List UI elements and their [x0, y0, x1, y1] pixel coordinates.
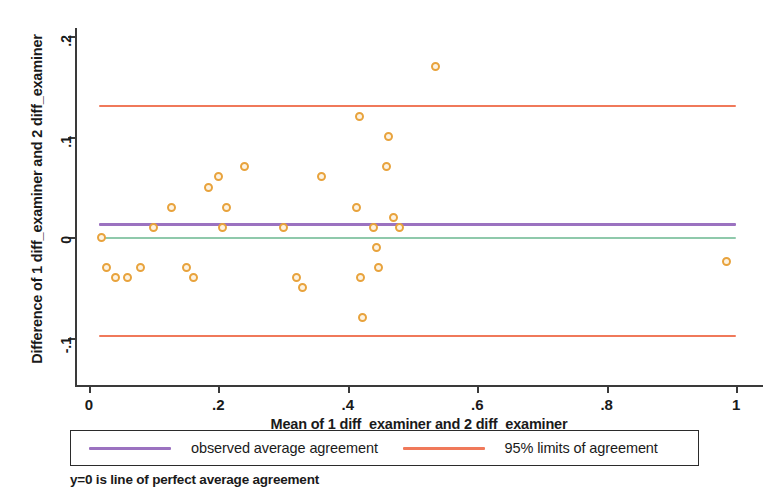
- data-point: [369, 223, 378, 232]
- x-tick-label: 1: [716, 396, 756, 413]
- y-tick-label: .2: [58, 35, 74, 63]
- data-point: [136, 263, 145, 272]
- data-point: [204, 183, 213, 192]
- data-point: [292, 273, 301, 282]
- data-point: [722, 257, 731, 266]
- data-point: [240, 162, 249, 171]
- legend-label-observed-average: observed average agreement: [191, 440, 378, 456]
- x-tick-label: .2: [198, 396, 238, 413]
- data-point: [395, 223, 404, 232]
- data-point: [352, 203, 361, 212]
- bland-altman-chart: Difference of 1 diff_examiner and 2 diff…: [0, 0, 773, 497]
- perfect-agreement-zero-line: [99, 237, 736, 239]
- legend-item-observed-average: observed average agreement: [71, 440, 385, 456]
- data-point: [382, 162, 391, 171]
- data-point: [123, 273, 132, 282]
- data-point: [218, 223, 227, 232]
- data-point: [374, 263, 383, 272]
- data-point: [214, 172, 223, 181]
- x-tick: [348, 385, 350, 393]
- data-point: [189, 273, 198, 282]
- y-tick-label: -.1: [58, 337, 74, 365]
- legend-swatch-limits-of-agreement: [403, 447, 485, 450]
- y-axis-line: [75, 28, 77, 386]
- x-tick: [477, 385, 479, 393]
- data-point: [384, 132, 393, 141]
- data-point: [279, 223, 288, 232]
- x-axis-line: [75, 385, 763, 387]
- x-tick-label: .6: [457, 396, 497, 413]
- plot-area: .2.10-.1 0.2.4.6.81 Mean of 1 diff_exami…: [76, 18, 762, 380]
- data-point: [317, 172, 326, 181]
- legend-swatch-observed-average: [89, 447, 171, 450]
- data-point: [149, 223, 158, 232]
- data-point: [389, 213, 398, 222]
- data-point: [222, 203, 231, 212]
- x-tick: [607, 385, 609, 393]
- chart-caption: y=0 is line of perfect average agreement: [70, 472, 319, 487]
- lower-limit-of-agreement: [99, 335, 736, 338]
- data-point: [167, 203, 176, 212]
- data-point: [372, 243, 381, 252]
- legend-label-limits-of-agreement: 95% limits of agreement: [505, 440, 658, 456]
- data-point: [97, 233, 106, 242]
- x-tick: [736, 385, 738, 393]
- observed-average-agreement: [99, 223, 736, 226]
- legend-item-limits-of-agreement: 95% limits of agreement: [385, 440, 699, 456]
- data-point: [102, 263, 111, 272]
- y-tick-label: 0: [58, 236, 74, 264]
- data-point: [358, 313, 367, 322]
- y-tick-label: .1: [58, 136, 74, 164]
- x-tick-label: .8: [587, 396, 627, 413]
- data-point: [182, 263, 191, 272]
- x-tick-label: .4: [328, 396, 368, 413]
- data-point: [431, 62, 440, 71]
- data-point: [355, 112, 364, 121]
- data-point: [356, 273, 365, 282]
- x-tick-label: 0: [69, 396, 109, 413]
- y-axis-label: Difference of 1 diff_examiner and 2 diff…: [29, 9, 45, 389]
- x-tick: [89, 385, 91, 393]
- data-point: [298, 283, 307, 292]
- x-tick: [218, 385, 220, 393]
- chart-legend: observed average agreement 95% limits of…: [70, 430, 699, 466]
- upper-limit-of-agreement: [99, 105, 736, 108]
- data-point: [111, 273, 120, 282]
